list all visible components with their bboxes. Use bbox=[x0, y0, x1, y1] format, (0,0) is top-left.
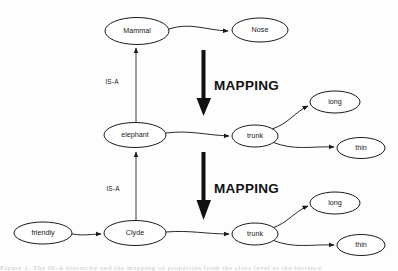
edge-trunk-to-thin-bottom bbox=[272, 240, 334, 246]
node-thin-bottom[interactable]: thin bbox=[337, 235, 385, 256]
node-long-bottom-label: long bbox=[328, 198, 342, 207]
node-mammal[interactable]: Mammal bbox=[105, 18, 169, 45]
node-nose-label: Nose bbox=[252, 25, 269, 34]
node-long-top-label: long bbox=[328, 97, 342, 106]
diagram-canvas: Mammal Nose elephant trunk long thin fri… bbox=[0, 0, 398, 271]
mapping-label-lower: MAPPING bbox=[214, 181, 279, 196]
edge-elephant-to-trunk bbox=[166, 132, 229, 136]
edge-mammal-to-nose bbox=[169, 26, 228, 31]
node-friendly[interactable]: friendly bbox=[14, 222, 72, 244]
figure-caption-partial: Figure 1. The IS-A hierarchy and the map… bbox=[0, 264, 398, 271]
edge-trunk-to-thin-top bbox=[272, 142, 334, 148]
node-mammal-label: Mammal bbox=[123, 26, 151, 35]
mapping-arrow-lower bbox=[197, 152, 212, 220]
semantic-network-svg: Mammal Nose elephant trunk long thin fri… bbox=[0, 0, 398, 271]
node-elephant[interactable]: elephant bbox=[104, 123, 166, 148]
node-trunk-bottom[interactable]: trunk bbox=[232, 223, 278, 245]
edge-trunk-to-long-top bbox=[272, 106, 308, 129]
node-elephant-label: elephant bbox=[121, 130, 149, 139]
node-trunk-bottom-label: trunk bbox=[247, 229, 263, 238]
node-thin-top-label: thin bbox=[355, 143, 367, 152]
edge-clyde-to-trunk bbox=[166, 231, 229, 234]
edge-friendly-to-clyde bbox=[72, 234, 101, 235]
node-friendly-label: friendly bbox=[31, 228, 55, 237]
node-trunk-top-label: trunk bbox=[247, 131, 263, 140]
isa-label-lower: IS-A bbox=[106, 185, 120, 192]
node-thin-top[interactable]: thin bbox=[337, 138, 385, 159]
mapping-label-upper: MAPPING bbox=[214, 78, 279, 93]
node-long-top[interactable]: long bbox=[310, 91, 360, 113]
node-trunk-top[interactable]: trunk bbox=[232, 125, 278, 147]
node-long-bottom[interactable]: long bbox=[310, 192, 360, 214]
mapping-arrow-upper bbox=[197, 50, 212, 116]
node-clyde-label: Clyde bbox=[126, 228, 144, 237]
node-nose[interactable]: Nose bbox=[232, 18, 288, 42]
isa-label-upper: IS-A bbox=[105, 78, 119, 85]
node-clyde[interactable]: Clyde bbox=[104, 221, 166, 246]
node-thin-bottom-label: thin bbox=[355, 240, 367, 249]
edge-trunk-to-long-bottom bbox=[272, 206, 308, 228]
